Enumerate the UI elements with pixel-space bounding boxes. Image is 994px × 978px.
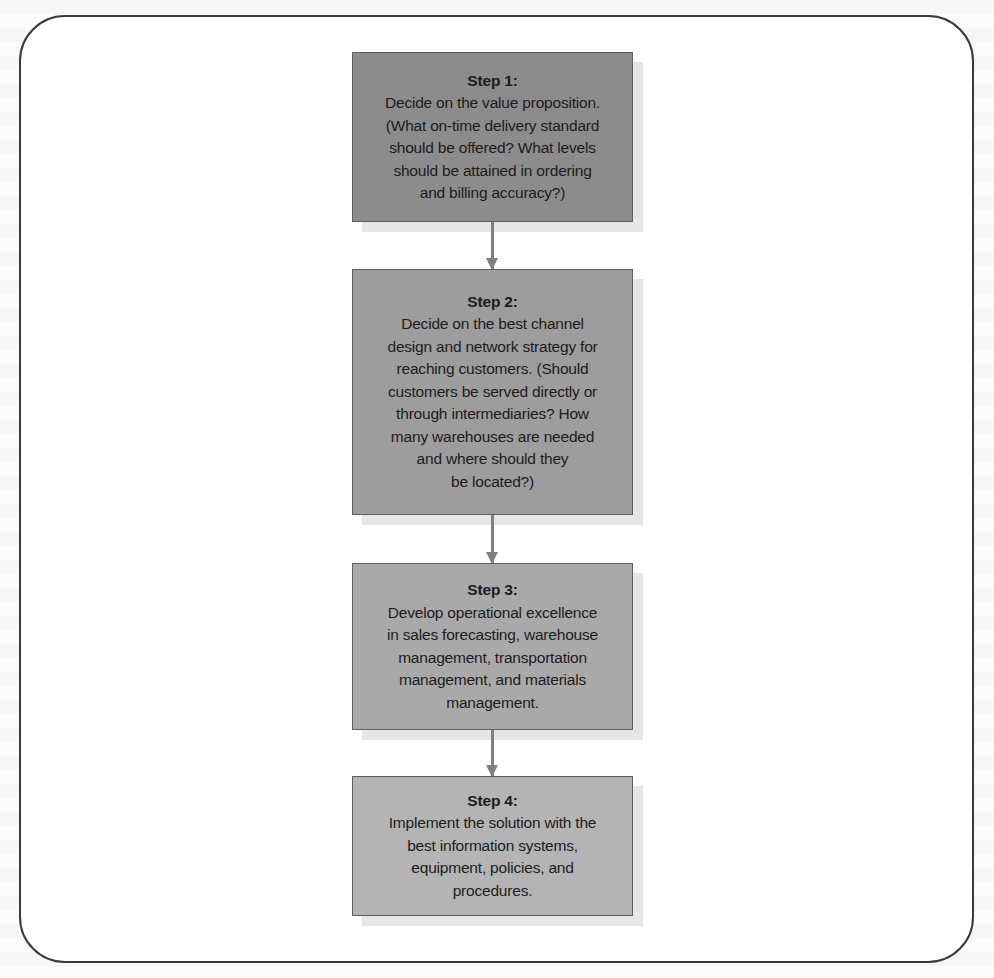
step-1-description: Decide on the value proposition. (What o… <box>385 92 600 205</box>
step-4-title: Step 4: <box>467 790 517 813</box>
arrow-step-1-to-2 <box>491 222 494 269</box>
arrow-step-3-to-4 <box>491 730 494 776</box>
step-1-box: Step 1: Decide on the value proposition.… <box>352 52 633 222</box>
step-3-title: Step 3: <box>467 579 517 602</box>
step-3-description: Develop operational excellence in sales … <box>387 602 598 715</box>
step-1-title: Step 1: <box>467 70 517 93</box>
arrow-step-2-to-3 <box>491 515 494 563</box>
step-2-box: Step 2: Decide on the best channel desig… <box>352 269 633 515</box>
step-4-description: Implement the solution with the best inf… <box>389 812 596 902</box>
step-2-title: Step 2: <box>467 291 517 314</box>
step-3-box: Step 3: Develop operational excellence i… <box>352 563 633 730</box>
step-2-description: Decide on the best channel design and ne… <box>387 313 597 493</box>
step-4-box: Step 4: Implement the solution with the … <box>352 776 633 916</box>
